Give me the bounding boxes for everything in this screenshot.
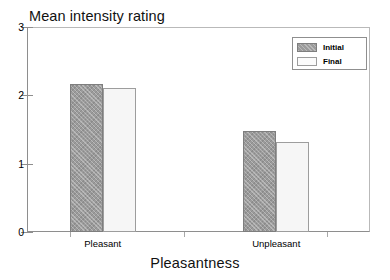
x-axis-tick [327,232,328,237]
bar-initial-unpleasant [243,131,276,232]
x-axis-title: Pleasantness [0,255,390,271]
x-axis-tick [184,232,185,237]
legend-label-final: Final [323,57,342,66]
chart-legend: Initial Final [292,37,367,70]
bar-final-pleasant [103,88,136,232]
bar-final-unpleasant [276,142,309,232]
legend-item-initial: Initial [297,41,362,53]
legend-swatch-final-icon [297,57,317,66]
bar-initial-pleasant [70,84,103,232]
y-axis-tick-label: 3 [8,22,24,33]
y-axis-tick-label: 2 [8,90,24,101]
x-axis-category-label: Unpleasant [252,238,300,249]
legend-item-final: Final [297,55,362,67]
legend-label-initial: Initial [323,43,344,52]
legend-swatch-initial-icon [297,43,317,52]
chart-title: Mean intensity rating [29,8,165,24]
x-axis-tick [70,232,71,237]
bar-chart-figure: Mean intensity rating 0123 PleasantUnple… [0,0,390,280]
y-axis-tick-label: 1 [8,159,24,170]
x-axis-category-label: Pleasant [84,238,121,249]
y-axis-tick-label: 0 [8,227,24,238]
